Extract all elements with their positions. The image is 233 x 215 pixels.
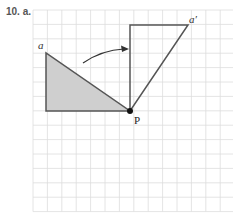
- rotation-arrow: [83, 49, 124, 63]
- rotation-diagram: a a′ P: [0, 0, 233, 215]
- original-label: a: [38, 39, 44, 51]
- image-label: a′: [189, 13, 198, 25]
- center-point: [127, 108, 133, 114]
- arrow-head-icon: [121, 46, 129, 53]
- center-label: P: [134, 114, 140, 126]
